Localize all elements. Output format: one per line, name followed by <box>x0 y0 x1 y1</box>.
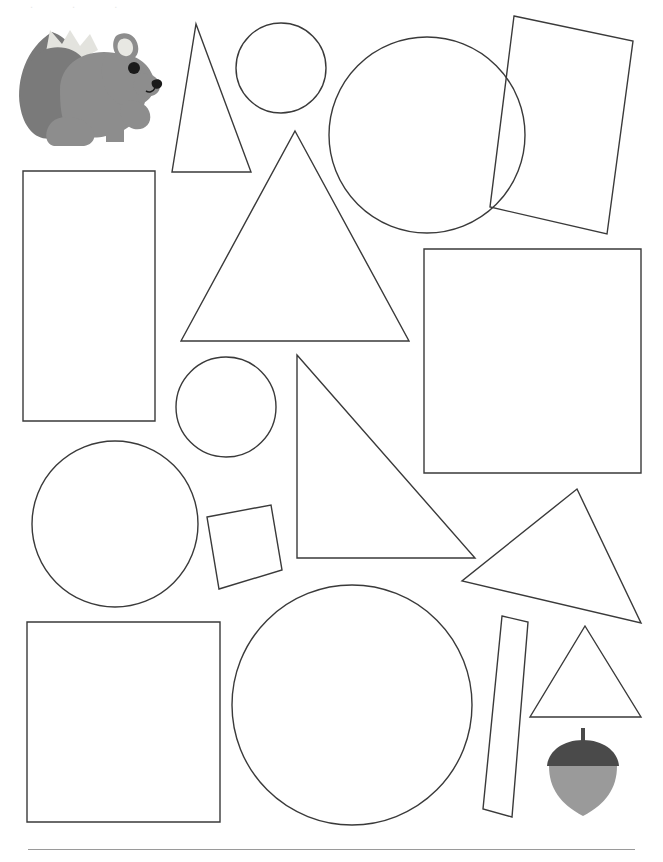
acorn-illustration <box>540 726 626 818</box>
shape-rectangle-left-upper[interactable] <box>23 171 155 421</box>
shape-circle-small-top[interactable] <box>236 23 326 113</box>
squirrel-illustration <box>12 18 172 168</box>
shape-circle-large-top-right[interactable] <box>329 37 525 233</box>
shape-triangle-tall-top-left[interactable] <box>172 24 251 172</box>
shape-triangle-right-angle-center[interactable] <box>297 355 475 558</box>
shape-rectangle-tilted-top-right[interactable] <box>490 16 633 234</box>
shape-triangle-obtuse-right[interactable] <box>462 489 641 623</box>
acorn-cap <box>547 740 619 766</box>
shape-circle-small-center-left[interactable] <box>176 357 276 457</box>
footer-divider-rule <box>28 849 635 850</box>
worksheet-page: . , . <box>0 0 663 862</box>
shape-triangle-large-center[interactable] <box>181 131 409 341</box>
shape-circle-large-bottom-center[interactable] <box>232 585 472 825</box>
shape-rectangle-narrow-strip[interactable] <box>483 616 528 817</box>
acorn-body <box>549 766 617 816</box>
shape-square-bottom-left[interactable] <box>27 622 220 822</box>
shape-square-right-center[interactable] <box>424 249 641 473</box>
shape-triangle-small-bottom-right[interactable] <box>530 626 641 717</box>
shape-square-small-tilted[interactable] <box>207 505 282 589</box>
shape-circle-medium-left[interactable] <box>32 441 198 607</box>
squirrel-eye <box>128 62 140 74</box>
